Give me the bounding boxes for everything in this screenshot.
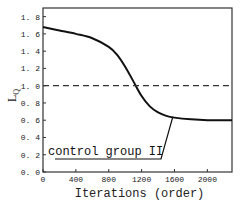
x-tick-label: 800 [102, 175, 117, 184]
y-tick-label: 1. 8 [21, 13, 40, 22]
y-tick-label: 1. 6 [21, 30, 40, 39]
x-tick-label: 0 [41, 175, 46, 184]
y-tick-label: 1. 2 [21, 64, 40, 73]
x-tick-label: 1600 [165, 175, 184, 184]
x-axis-label: Iterations (order) [75, 187, 205, 201]
y-tick-label: 0. 6 [21, 116, 40, 125]
y-tick-label: 0. 8 [21, 99, 40, 108]
y-tick-label: 0. 2 [21, 151, 40, 160]
series-line [43, 27, 232, 120]
x-tick-label: 1200 [132, 175, 151, 184]
y-tick-label: 0. 4 [21, 133, 40, 142]
x-tick-label: 2000 [198, 175, 217, 184]
annotation-label: control group II [48, 145, 163, 159]
y-tick-label: 1. 4 [21, 47, 40, 56]
x-tick-label: 400 [69, 175, 84, 184]
y-axis-label: LQ [5, 89, 21, 102]
y-tick-label: 1. 0 [21, 82, 40, 91]
plot-area: 0. 00. 20. 40. 60. 81. 01. 21. 41. 61. 8… [5, 8, 232, 201]
y-tick-label: 0. 0 [21, 168, 40, 177]
chart: 0. 00. 20. 40. 60. 81. 01. 21. 41. 61. 8… [0, 0, 240, 204]
